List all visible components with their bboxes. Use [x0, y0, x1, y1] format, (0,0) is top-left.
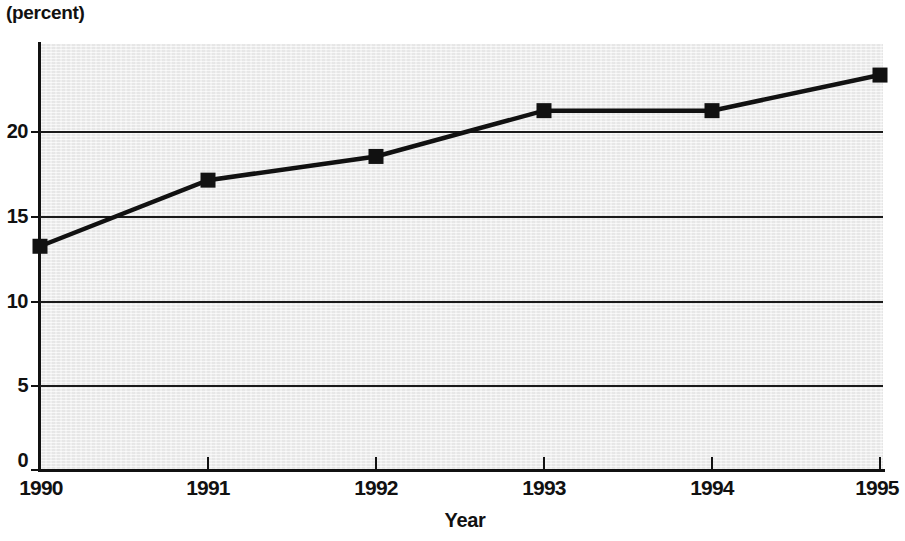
- plot-background-texture: [40, 44, 883, 470]
- chart-figure: (percent) 20 15 10 5 0 1990 1991 1992 19…: [0, 0, 905, 541]
- y-tick-label-10: 10: [0, 291, 28, 311]
- plot-area: [40, 44, 883, 470]
- y-tick-mark-20: [31, 131, 40, 133]
- gridline-20: [40, 131, 883, 133]
- y-tick-mark-10: [31, 301, 40, 303]
- x-tick-label-1995: 1995: [832, 477, 905, 498]
- x-tick-mark-1995: [879, 457, 881, 470]
- x-tick-label-1993: 1993: [499, 477, 589, 498]
- y-tick-label-5: 5: [0, 375, 28, 395]
- x-axis-line: [38, 469, 885, 472]
- gridline-15: [40, 216, 883, 218]
- x-tick-mark-1991: [207, 457, 209, 470]
- y-axis-line: [38, 42, 41, 472]
- x-tick-label-1990: 1990: [0, 477, 86, 498]
- x-tick-label-1992: 1992: [331, 477, 421, 498]
- y-tick-label-20: 20: [0, 121, 28, 141]
- x-tick-mark-1993: [543, 457, 545, 470]
- y-axis-unit-label: (percent): [6, 2, 85, 24]
- x-axis-title: Year: [405, 509, 525, 532]
- x-tick-mark-1994: [711, 457, 713, 470]
- y-tick-mark-5: [31, 385, 40, 387]
- gridline-10: [40, 301, 883, 303]
- gridline-5: [40, 385, 883, 387]
- x-tick-label-1991: 1991: [163, 477, 253, 498]
- x-tick-mark-1990: [39, 457, 41, 470]
- x-tick-label-1994: 1994: [667, 477, 757, 498]
- y-tick-label-0: 0: [0, 450, 28, 470]
- y-tick-mark-15: [31, 216, 40, 218]
- x-tick-mark-1992: [375, 457, 377, 470]
- y-tick-label-15: 15: [0, 206, 28, 226]
